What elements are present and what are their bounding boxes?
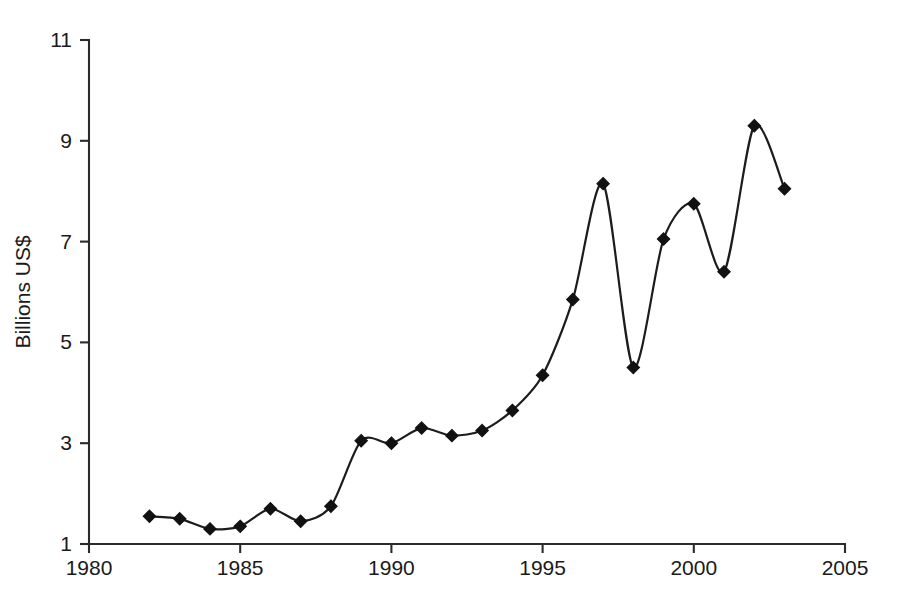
line-chart-plot: 1357911 198019851990199520002005 Billion… [0,0,900,608]
x-tick-label: 1985 [217,556,264,579]
y-axis-ticks [80,40,89,544]
data-point-marker [174,513,186,525]
y-tick-label: 11 [50,28,72,51]
y-axis-tick-labels: 1357911 [50,28,72,555]
y-tick-label: 9 [60,129,72,152]
data-point-marker [143,510,155,522]
x-tick-label: 1990 [368,556,415,579]
data-point-marker [778,182,790,194]
x-tick-label: 2000 [670,556,717,579]
data-point-marker [748,119,760,131]
x-tick-label: 1995 [519,556,566,579]
y-tick-label: 3 [60,431,72,454]
chart-container: 1357911 198019851990199520002005 Billion… [0,0,900,608]
x-tick-label: 2005 [822,556,869,579]
data-point-marker [446,429,458,441]
y-axis-title: Billions US$ [11,235,34,349]
data-point-marker [385,437,397,449]
data-point-marker [234,520,246,532]
data-point-marker [355,434,367,446]
data-point-marker [476,424,488,436]
series-line [149,124,784,529]
data-point-marker [567,293,579,305]
y-tick-label: 7 [60,230,72,253]
y-tick-label: 1 [60,532,72,555]
data-series-markers [143,119,790,535]
x-axis-tick-labels: 198019851990199520002005 [66,556,869,579]
data-point-marker [204,523,216,535]
data-point-marker [415,422,427,434]
data-point-marker [264,503,276,515]
data-point-marker [657,233,669,245]
data-series-line [149,124,784,529]
x-axis-ticks [89,544,845,553]
y-tick-label: 5 [60,330,72,353]
x-tick-label: 1980 [66,556,113,579]
data-point-marker [536,369,548,381]
data-point-marker [294,515,306,527]
data-point-marker [718,266,730,278]
